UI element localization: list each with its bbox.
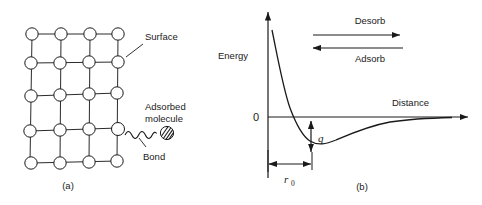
panel-a-group: Surface Adsorbed molecule — [24, 28, 186, 191]
lattice-atom — [112, 28, 124, 40]
lattice-bonds — [30, 34, 119, 163]
lattice-atom — [54, 157, 66, 169]
energy-axis-label: Energy — [218, 50, 248, 61]
bond-label: Bond — [143, 151, 165, 162]
surface-label: Surface — [145, 31, 178, 42]
equilibrium-distance-label: r — [284, 173, 289, 185]
lattice-atom — [26, 28, 38, 40]
lattice-atom — [83, 156, 95, 168]
panel-a-sublabel: (a) — [62, 180, 74, 191]
lattice-atom — [83, 88, 95, 100]
lattice-atoms — [24, 28, 125, 169]
lattice-row-bond — [30, 62, 119, 63]
lattice-atom — [111, 155, 123, 167]
lattice-atom — [111, 87, 123, 99]
lattice-atom — [84, 28, 96, 40]
hatched-circle-icon — [160, 126, 175, 141]
potential-energy-curve — [272, 30, 452, 144]
lattice-atom — [24, 125, 36, 137]
lattice-row-bond — [31, 93, 118, 96]
equilibrium-distance-subscript: 0 — [291, 179, 295, 188]
panel-b-group: Energy Distance 0 q r 0 Desorb Adsorb — [218, 12, 468, 192]
panel-b-sublabel: (b) — [356, 181, 368, 192]
wavy-line-icon — [125, 132, 157, 139]
lattice-atom — [83, 56, 95, 68]
lattice-atom — [83, 123, 95, 135]
surface-leader-line — [126, 44, 143, 57]
lattice-atom — [25, 157, 37, 169]
lattice-atom — [54, 124, 66, 136]
lattice-row-bond — [31, 161, 117, 163]
zero-label: 0 — [253, 111, 259, 123]
well-depth-label: q — [318, 132, 324, 144]
lattice-atom — [55, 28, 67, 40]
adsorption-figure: Surface Adsorbed molecule — [0, 0, 482, 205]
lattice-atom — [25, 90, 37, 102]
lattice-atom — [112, 56, 124, 68]
lattice-atom — [25, 57, 37, 69]
adsorbed-molecule-label-line2: molecule — [145, 113, 183, 124]
distance-axis-label: Distance — [392, 97, 429, 108]
lattice-atom — [54, 57, 66, 69]
bond-leader-line — [139, 138, 146, 147]
adsorbed-molecule-label-line1: Adsorbed — [145, 101, 186, 112]
adsorb-label: Adsorb — [355, 53, 385, 64]
lattice-row-bond — [30, 128, 118, 131]
figure-canvas: Surface Adsorbed molecule — [0, 0, 482, 205]
lattice-atom — [54, 89, 66, 101]
lattice-atom-bonded — [112, 123, 125, 136]
desorb-label: Desorb — [355, 15, 386, 26]
